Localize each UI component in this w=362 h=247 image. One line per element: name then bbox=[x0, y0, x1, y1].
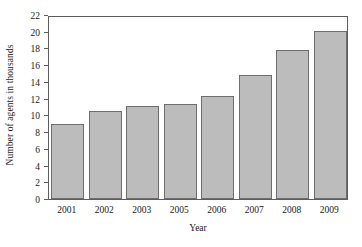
y-axis-tick: 18 bbox=[0, 43, 48, 55]
y-axis-tick-label: 8 bbox=[35, 127, 40, 139]
x-axis-tick-label: 2001 bbox=[48, 203, 86, 217]
y-axis-tick-label: 20 bbox=[31, 27, 41, 39]
y-axis-tick: 8 bbox=[0, 127, 48, 139]
x-axis-tick-label: 2007 bbox=[236, 203, 274, 217]
y-axis-tick: 0 bbox=[0, 194, 48, 206]
x-axis-tick-label: 2006 bbox=[198, 203, 236, 217]
y-axis-tick-label: 6 bbox=[35, 144, 40, 156]
y-axis-tick-label: 0 bbox=[35, 194, 40, 206]
y-axis-tick: 6 bbox=[0, 144, 48, 156]
bar bbox=[89, 111, 122, 199]
y-axis-tick: 4 bbox=[0, 161, 48, 173]
y-axis-tick: 10 bbox=[0, 110, 48, 122]
y-axis-tick: 12 bbox=[0, 94, 48, 106]
x-axis-tick-label: 2005 bbox=[161, 203, 199, 217]
y-axis-tick: 14 bbox=[0, 77, 48, 89]
x-axis-tick-label: 2009 bbox=[311, 203, 349, 217]
y-axis-tick-label: 10 bbox=[31, 110, 41, 122]
bar bbox=[276, 50, 309, 199]
y-axis-tick-label: 16 bbox=[31, 60, 41, 72]
bar bbox=[201, 96, 234, 199]
y-axis-tick: 22 bbox=[0, 10, 48, 22]
bar bbox=[314, 31, 347, 199]
y-axis-tick-label: 22 bbox=[31, 10, 41, 22]
y-axis-tick: 16 bbox=[0, 60, 48, 72]
bar bbox=[239, 75, 272, 199]
bar bbox=[164, 104, 197, 199]
x-axis-tick-label: 2002 bbox=[86, 203, 124, 217]
y-axis-tick-label: 2 bbox=[35, 177, 40, 189]
y-axis-tick-label: 14 bbox=[31, 77, 41, 89]
bar bbox=[51, 124, 84, 199]
x-axis-tick-label: 2008 bbox=[273, 203, 311, 217]
y-axis-tick-label: 18 bbox=[31, 43, 41, 55]
bar bbox=[126, 106, 159, 199]
plot-area bbox=[48, 16, 348, 200]
x-axis-tick-label: 2003 bbox=[123, 203, 161, 217]
x-axis-title: Year bbox=[48, 223, 348, 233]
y-axis-tick-label: 4 bbox=[35, 161, 40, 173]
y-axis-tick: 2 bbox=[0, 177, 48, 189]
y-axis-tick: 20 bbox=[0, 27, 48, 39]
bar-chart: Number of agents in thousands 0246810121… bbox=[0, 0, 362, 247]
y-axis-tick-label: 12 bbox=[31, 94, 41, 106]
